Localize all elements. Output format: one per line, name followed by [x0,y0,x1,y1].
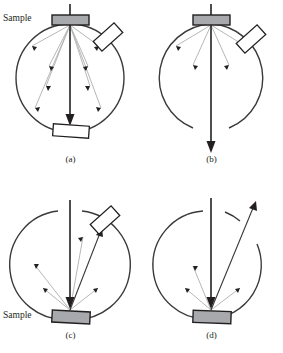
panel-d: (d) [141,176,282,352]
sample-block [193,310,231,323]
exit-ray [211,208,253,310]
panel-b-diagram [141,0,282,176]
panel-caption-d: (d) [141,330,282,340]
panel-caption-c: (c) [0,330,141,340]
scattered-ray-heads [185,266,240,293]
chamber-arc-right [211,244,261,319]
sample-block [52,15,89,25]
primary-beam-arrowhead [207,141,216,153]
detector-flat [53,124,90,138]
panel-caption-b: (b) [141,154,282,164]
scattered-ray-heads [34,237,98,293]
scattered-rays [32,25,101,108]
panel-caption-a: (a) [0,154,141,164]
panel-c-diagram [0,176,141,352]
sample-block [52,310,91,324]
sample-block [193,15,230,25]
panel-d-diagram [141,176,282,352]
detector-tilted [236,25,266,53]
panel-a: Sample (a) [0,0,141,176]
sample-label: Sample [3,310,32,320]
sample-label: Sample [3,13,32,23]
panel-c: Sample (c) [0,176,141,352]
detector-tilted [93,23,123,51]
figure-container: Sample (a) [0,0,283,353]
panel-a-diagram [0,0,141,176]
panel-b: (b) [141,0,282,176]
scattered-rays [34,237,98,310]
chamber-arc-left [159,24,211,128]
chamber-arc-top-right [225,212,240,221]
exit-ray-arrowhead [249,201,257,211]
detector-tilted [90,206,120,234]
